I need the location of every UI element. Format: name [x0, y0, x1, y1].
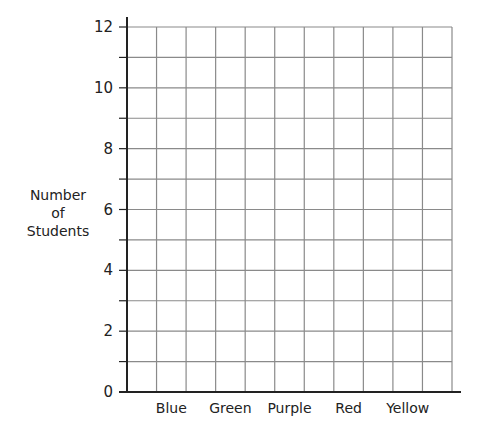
y-tick-label: 8 [103, 140, 113, 158]
y-tick-label: 12 [94, 18, 113, 36]
y-tick-label: 0 [103, 383, 113, 401]
category-label: Purple [267, 400, 311, 416]
y-tick-label: 2 [103, 322, 113, 340]
category-label: Blue [156, 400, 187, 416]
y-ticks [119, 27, 127, 392]
y-tick-label: 4 [103, 261, 113, 279]
y-tick-labels: 024681012 [94, 18, 113, 401]
y-tick-label: 10 [94, 79, 113, 97]
y-tick-label: 6 [103, 201, 113, 219]
category-labels: BlueGreenPurpleRedYellow [156, 400, 429, 416]
category-label: Green [209, 400, 251, 416]
bar-chart: 024681012 BlueGreenPurpleRedYellow [0, 0, 480, 430]
category-label: Yellow [385, 400, 429, 416]
category-label: Red [335, 400, 362, 416]
grid [127, 27, 452, 392]
